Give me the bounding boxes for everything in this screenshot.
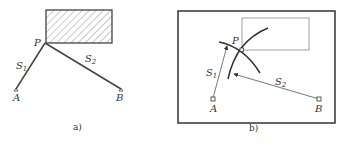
label-s2: S2 — [275, 76, 287, 89]
label-s2: S2 — [85, 53, 97, 66]
label-p: P — [33, 37, 41, 48]
anchor-a-icon — [211, 97, 215, 101]
label-s1: S1 — [206, 67, 217, 80]
link-s2 — [45, 43, 121, 89]
label-p: P — [231, 35, 239, 46]
caption-b: b) — [249, 123, 258, 133]
panel-b: P A B S1 S2 b) — [178, 11, 335, 133]
hatched-rectangle — [46, 10, 112, 43]
label-b: B — [314, 103, 322, 114]
anchor-b-icon — [317, 97, 321, 101]
arc-s1 — [219, 42, 260, 73]
diagram-canvas: P A B S1 S2 a) P A B S1 S2 b) — [0, 0, 345, 147]
label-a: A — [209, 103, 217, 114]
label-s1: S1 — [16, 60, 27, 73]
label-a: A — [12, 92, 20, 103]
point-p-marker — [240, 48, 244, 52]
inner-rectangle — [242, 18, 309, 50]
label-b: B — [115, 92, 123, 103]
caption-a: a) — [73, 122, 82, 132]
panel-a: P A B S1 S2 a) — [12, 10, 123, 132]
anchor-a-icon — [14, 88, 18, 91]
